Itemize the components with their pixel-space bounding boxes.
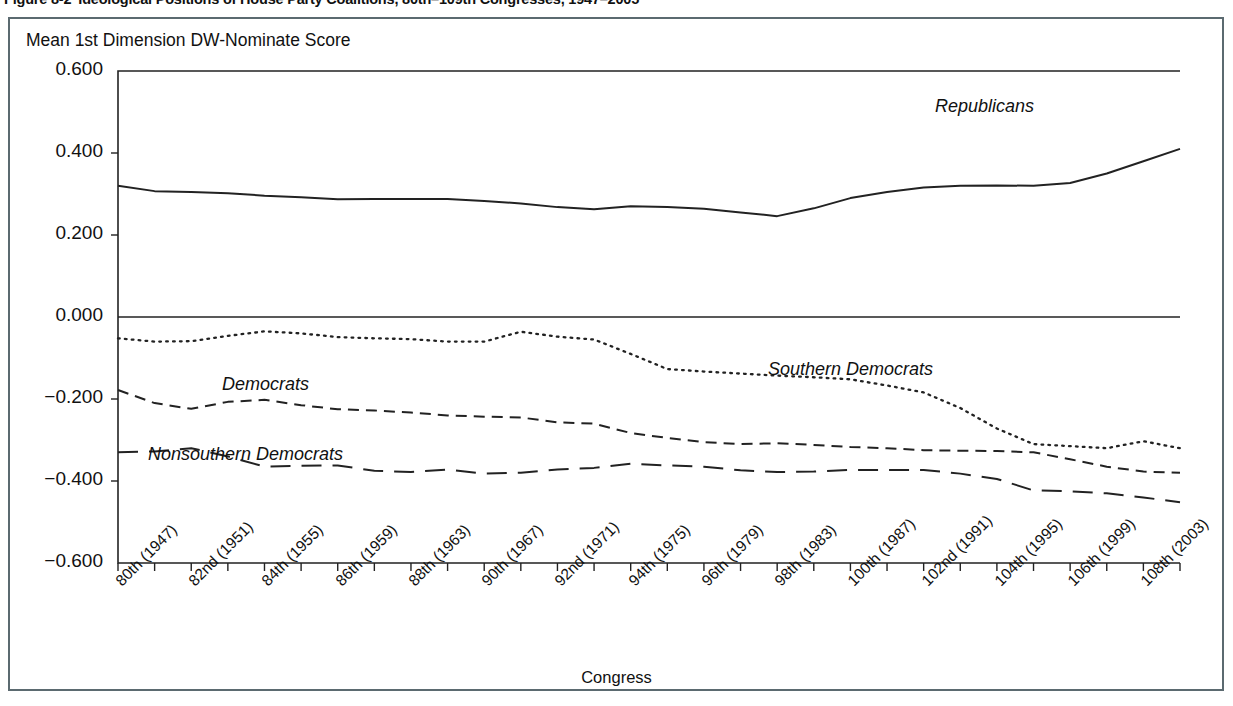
series-label-nonsouthern-democrats: Nonsouthern Democrats — [148, 444, 343, 465]
series-label-southern-democrats: Southern Democrats — [768, 359, 933, 380]
y-tick-label: 0.600 — [11, 58, 103, 80]
y-tick-label: 0.200 — [11, 222, 103, 244]
y-tick-label: −0.200 — [11, 386, 103, 408]
x-axis-caption: Congress — [0, 668, 1233, 687]
figure-page: Figure 8-2Ideological Positions of House… — [0, 0, 1233, 706]
y-tick-label: −0.600 — [11, 550, 103, 572]
series-line-republicans — [118, 149, 1180, 216]
series-label-republicans: Republicans — [935, 96, 1034, 117]
chart-plot — [0, 0, 1233, 706]
series-label-democrats: Democrats — [222, 374, 309, 395]
y-tick-label: 0.000 — [11, 304, 103, 326]
y-tick-label: −0.400 — [11, 468, 103, 490]
y-tick-label: 0.400 — [11, 140, 103, 162]
